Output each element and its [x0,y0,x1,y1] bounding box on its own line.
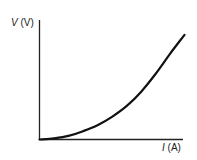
x-axis-unit: (A) [168,142,181,153]
y-axis-unit: (V) [20,17,33,28]
y-axis-variable: V [11,17,18,28]
data-curve [40,35,185,140]
x-axis-variable: I [162,142,165,153]
y-axis-label: V (V) [11,17,34,28]
x-axis-label: I (A) [162,142,181,153]
